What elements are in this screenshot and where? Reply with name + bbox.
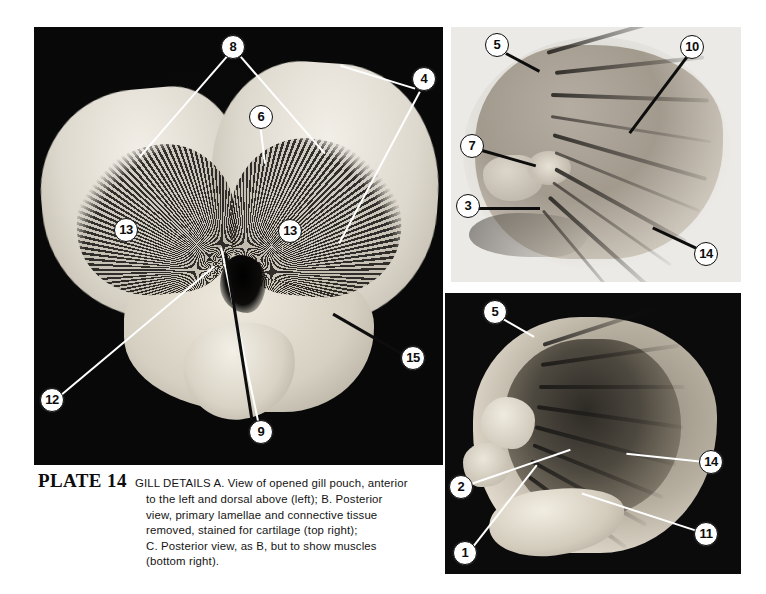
caption-line-1: GILL DETAILS A. View of opened gill pouc… [135, 476, 408, 492]
callout-1-c[interactable]: 1 [453, 541, 477, 565]
callout-15[interactable]: 15 [401, 346, 425, 370]
caption-line-4: removed, stained for cartilage (top righ… [146, 523, 441, 539]
caption-line-5: C. Posterior view, as B, but to show mus… [146, 539, 441, 555]
callout-6[interactable]: 6 [249, 105, 273, 129]
plate-caption: PLATE 14 GILL DETAILS A. View of opened … [34, 466, 443, 576]
panel-a-gill-pouch [34, 27, 443, 465]
callout-7-b[interactable]: 7 [460, 134, 484, 158]
callout-4[interactable]: 4 [412, 67, 436, 91]
callout-3-b[interactable]: 3 [456, 194, 480, 218]
caption-line-3: view, primary lamellae and connective ti… [146, 508, 441, 524]
caption-line-6: (bottom right). [146, 554, 441, 570]
callout-14-b[interactable]: 14 [694, 242, 718, 266]
caption-rest: to the left and dorsal above (left); B. … [146, 492, 441, 570]
specimen-cartilage-knob [481, 397, 535, 449]
callout-11-c[interactable]: 11 [694, 522, 718, 546]
callout-9[interactable]: 9 [249, 420, 273, 444]
muscle-band [539, 385, 685, 389]
callout-13-left[interactable]: 13 [114, 218, 138, 242]
caption-line-2: to the left and dorsal above (left); B. … [146, 492, 441, 508]
callout-5-c[interactable]: 5 [483, 300, 507, 324]
callout-8[interactable]: 8 [221, 35, 245, 59]
callout-13-right[interactable]: 13 [278, 219, 302, 243]
plate-figure: 8 4 6 13 13 15 12 9 5 10 7 3 14 5 14 2 1… [0, 0, 766, 594]
gill-arch-cleft [220, 255, 266, 313]
plate-label: PLATE 14 [38, 470, 127, 492]
callout-14-c[interactable]: 14 [699, 450, 723, 474]
callout-2-c[interactable]: 2 [449, 475, 473, 499]
caption-first-row: PLATE 14 GILL DETAILS A. View of opened … [38, 470, 441, 492]
callout-10-b[interactable]: 10 [680, 35, 704, 59]
callout-5-b[interactable]: 5 [485, 33, 509, 57]
callout-12[interactable]: 12 [40, 388, 64, 412]
